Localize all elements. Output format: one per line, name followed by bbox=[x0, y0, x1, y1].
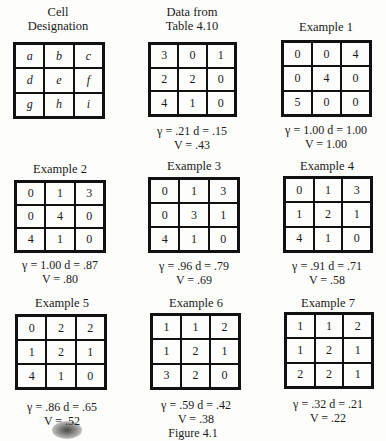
example-4-grid: 0 1 3 1 2 1 4 1 0 bbox=[283, 176, 373, 253]
grid-cell: 0 bbox=[75, 228, 104, 251]
stats-gamma-d: γ = .59 d = .42 bbox=[131, 398, 261, 412]
grid-cell: 0 bbox=[75, 205, 104, 228]
grid-cell: 1 bbox=[285, 202, 314, 226]
example-3-grid: 0 1 3 0 3 1 4 1 0 bbox=[148, 177, 240, 253]
grid-cell: 0 bbox=[207, 68, 235, 92]
panel-title: Example 4 bbox=[262, 159, 386, 173]
panel-stats: γ = .21 d = .15 V = .43 bbox=[127, 124, 257, 152]
grid-cell: 4 bbox=[16, 228, 45, 251]
example-5-grid: 0 2 2 1 2 1 4 1 0 bbox=[15, 314, 107, 390]
grid-cell: 1 bbox=[342, 202, 371, 226]
grid-cell: 1 bbox=[210, 339, 239, 363]
grid-cell: e bbox=[44, 68, 73, 92]
grid-cell: 0 bbox=[285, 178, 314, 202]
panel-title: Example 7 bbox=[263, 296, 386, 310]
panel-example-1: Example 1 bbox=[261, 20, 386, 34]
grid-cell: 1 bbox=[209, 203, 238, 227]
grid-cell: 3 bbox=[209, 179, 238, 203]
stats-v: V = 1.00 bbox=[261, 137, 386, 151]
grid-cell: 1 bbox=[46, 364, 75, 388]
grid-cell: 0 bbox=[150, 203, 179, 227]
cell-designation-grid: a b c d e f g h i bbox=[13, 42, 105, 119]
panel-title: Example 1 bbox=[261, 20, 386, 34]
grid-cell: 2 bbox=[178, 68, 206, 92]
stats-gamma-d: γ = .21 d = .15 bbox=[127, 124, 257, 138]
stats-gamma-d: γ = 1.00 d = .87 bbox=[0, 258, 125, 272]
stats-gamma-d: γ = .96 d = .79 bbox=[129, 259, 259, 273]
grid-cell: 1 bbox=[314, 178, 343, 202]
example-6-grid: 1 1 2 1 2 1 3 2 0 bbox=[150, 313, 241, 390]
grid-cell: 0 bbox=[16, 182, 45, 205]
panel-example-2: Example 2 bbox=[0, 162, 125, 176]
panel-title: Example 2 bbox=[0, 162, 125, 176]
grid-cell: 2 bbox=[210, 315, 239, 339]
grid-cell: 0 bbox=[209, 227, 238, 251]
grid-cell: 0 bbox=[312, 91, 341, 115]
example-1-grid: 0 0 4 0 4 0 5 0 0 bbox=[281, 40, 372, 117]
panel-stats: γ = .32 d = .21 V = .22 bbox=[263, 397, 386, 425]
panel-stats: γ = 1.00 d = .87 V = .80 bbox=[0, 258, 125, 286]
grid-cell: 2 bbox=[181, 339, 210, 363]
panel-stats: γ = .59 d = .42 V = .38 bbox=[131, 398, 261, 426]
grid-cell: 4 bbox=[312, 66, 341, 90]
stats-v: V = .69 bbox=[129, 273, 259, 287]
grid-cell: 0 bbox=[341, 91, 370, 115]
grid-cell: d bbox=[15, 68, 44, 92]
panel-table-data: Data from Table 4.10 bbox=[127, 5, 257, 33]
grid-cell: i bbox=[74, 93, 103, 117]
grid-cell: 4 bbox=[150, 91, 178, 115]
grid-cell: b bbox=[44, 44, 73, 68]
stats-gamma-d: γ = .91 d = .71 bbox=[262, 259, 386, 273]
grid-cell: 2 bbox=[181, 364, 210, 388]
grid-cell: 0 bbox=[283, 66, 312, 90]
grid-cell: 0 bbox=[76, 364, 105, 388]
grid-cell: 0 bbox=[17, 316, 46, 340]
grid-cell: 5 bbox=[283, 91, 312, 115]
grid-cell: 1 bbox=[343, 363, 372, 387]
grid-cell: 0 bbox=[210, 364, 239, 388]
grid-cell: 3 bbox=[342, 178, 371, 202]
panel-title: Example 3 bbox=[129, 159, 259, 173]
grid-cell: 1 bbox=[76, 340, 105, 364]
grid-cell: 1 bbox=[286, 338, 315, 362]
stats-v: V = .38 bbox=[131, 412, 261, 426]
grid-cell: 4 bbox=[285, 227, 314, 251]
grid-cell: g bbox=[15, 93, 44, 117]
panel-cell-designation: Cell Designation bbox=[0, 5, 123, 33]
panel-stats: γ = .91 d = .71 V = .58 bbox=[262, 259, 386, 287]
panel-example-6: Example 6 bbox=[131, 296, 261, 310]
panel-title: Example 6 bbox=[131, 296, 261, 310]
grid-cell: 2 bbox=[315, 338, 344, 362]
grid-cell: 0 bbox=[16, 205, 45, 228]
grid-cell: 1 bbox=[45, 182, 74, 205]
grid-cell: 2 bbox=[46, 316, 75, 340]
grid-cell: 1 bbox=[179, 179, 208, 203]
panel-example-4: Example 4 bbox=[262, 159, 386, 173]
grid-cell: 4 bbox=[150, 227, 179, 251]
panel-stats: γ = 1.00 d = 1.00 V = 1.00 bbox=[261, 123, 386, 151]
grid-cell: h bbox=[44, 93, 73, 117]
example-7-grid: 1 1 2 1 2 1 2 2 1 bbox=[284, 312, 374, 389]
panel-title-line1: Cell bbox=[0, 5, 123, 19]
grid-cell: 4 bbox=[341, 42, 370, 66]
grid-cell: 4 bbox=[17, 364, 46, 388]
panel-example-5: Example 5 bbox=[0, 296, 127, 310]
stats-v: V = .22 bbox=[263, 411, 386, 425]
panel-title-line2: Table 4.10 bbox=[127, 19, 257, 33]
grid-cell: 1 bbox=[152, 315, 181, 339]
grid-cell: 2 bbox=[314, 202, 343, 226]
grid-cell: 3 bbox=[152, 364, 181, 388]
grid-cell: 1 bbox=[343, 338, 372, 362]
grid-cell: 0 bbox=[283, 42, 312, 66]
grid-cell: 1 bbox=[178, 91, 206, 115]
grid-cell: 0 bbox=[150, 179, 179, 203]
example-2-grid: 0 1 3 0 4 0 4 1 0 bbox=[14, 180, 106, 253]
grid-cell: 1 bbox=[45, 228, 74, 251]
grid-cell: 1 bbox=[315, 314, 344, 338]
grid-cell: 2 bbox=[46, 340, 75, 364]
grid-cell: 0 bbox=[342, 227, 371, 251]
panel-stats: γ = .96 d = .79 V = .69 bbox=[129, 259, 259, 287]
grid-cell: 3 bbox=[150, 44, 178, 68]
figure-caption: Figure 4.1 bbox=[0, 426, 386, 441]
panel-example-3: Example 3 bbox=[129, 159, 259, 173]
